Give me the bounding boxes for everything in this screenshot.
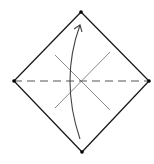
vertex-dot-bottom (80, 150, 84, 154)
origami-diagram (0, 0, 154, 164)
vertex-dot-left (12, 79, 16, 83)
vertex-dot-right (147, 79, 151, 83)
vertex-dot-top (79, 10, 83, 14)
diagram-svg (0, 0, 154, 164)
